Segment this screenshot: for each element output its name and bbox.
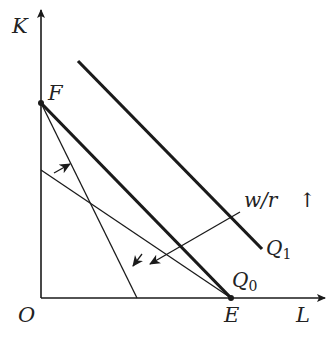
wr-arrow: [150, 212, 240, 264]
l-axis-label: L: [295, 303, 310, 327]
point-f-label: F: [47, 81, 64, 105]
q1-label: Q1: [266, 236, 291, 262]
k-axis-label: K: [11, 14, 29, 38]
steep-isocost-line: [41, 103, 137, 298]
up-arrow-icon: ↑: [299, 188, 316, 212]
rotation-arrow-upper: [54, 164, 70, 173]
point-e-dot: [228, 295, 234, 301]
wr-ratio-label: w/r: [244, 188, 279, 212]
q0-label: Q0: [232, 268, 257, 294]
point-e-label: E: [223, 303, 239, 327]
q0-line: [41, 103, 231, 298]
origin-label: O: [18, 303, 35, 327]
rotation-arrow-lower: [133, 254, 142, 266]
q1-line: [78, 61, 262, 249]
economics-diagram: K L O F E Q0 Q1 w/r ↑: [0, 0, 335, 355]
point-f-dot: [38, 100, 44, 106]
